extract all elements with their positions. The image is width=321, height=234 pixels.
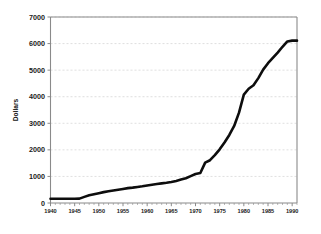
y-tick-label: 4000 [29, 92, 45, 101]
y-tick-label: 6000 [29, 39, 45, 48]
x-tick-label: 1965 [165, 208, 177, 214]
x-tick-label: 1950 [93, 208, 105, 214]
x-tick-label: 1985 [262, 208, 274, 214]
line-chart: 01000200030004000500060007000 1940194519… [0, 0, 321, 234]
y-tick-label: 5000 [29, 66, 45, 75]
x-tick-label: 1960 [141, 208, 153, 214]
y-tick-label: 0 [41, 199, 45, 208]
x-tick-label: 1940 [44, 208, 56, 214]
y-tick-label: 3000 [29, 119, 45, 128]
y-tick-label: 7000 [29, 13, 45, 22]
chart-background [0, 0, 321, 234]
x-tick-label: 1990 [286, 208, 298, 214]
y-tick-label: 1000 [29, 172, 45, 181]
y-axis-title: Dollars [12, 98, 19, 121]
x-tick-label: 1955 [117, 208, 129, 214]
x-tick-label: 1980 [238, 208, 250, 214]
chart-canvas: 01000200030004000500060007000 1940194519… [0, 0, 321, 234]
y-tick-label: 2000 [29, 145, 45, 154]
x-tick-label: 1945 [68, 208, 80, 214]
x-tick-label: 1970 [189, 208, 201, 214]
x-tick-label: 1975 [213, 208, 225, 214]
